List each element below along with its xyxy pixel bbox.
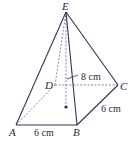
ab-dimension-label: 6 cm (34, 127, 54, 138)
vertex-label-a: A (8, 126, 16, 138)
edge-de-hidden (55, 12, 66, 85)
edge-eb (66, 12, 77, 125)
edge-ad-hidden (16, 85, 55, 125)
vertex-label-d: D (44, 79, 53, 91)
vertex-label-c: C (120, 80, 128, 92)
edge-ea (16, 12, 66, 125)
bc-dimension-label: 6 cm (101, 103, 121, 114)
center-point (64, 105, 67, 108)
vertex-label-b: B (73, 126, 80, 138)
height-dimension-label: 8 cm (81, 71, 101, 82)
vertex-label-e: E (61, 0, 69, 12)
pyramid-diagram: E D C A B 8 cm 6 cm 6 cm (0, 0, 134, 141)
